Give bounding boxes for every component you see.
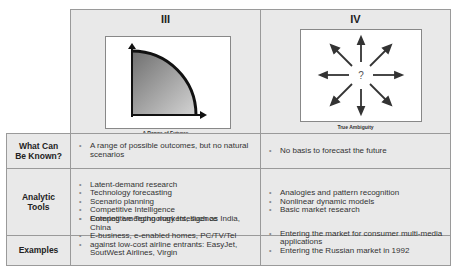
row-header-examples: Examples: [6, 235, 71, 266]
cell-r3-c3: Entering emerging markets, such as India…: [70, 235, 261, 266]
quarter-circle-range-icon: [106, 37, 230, 128]
header-cell-iv: IV ? True Ambiguity: [260, 9, 451, 134]
list-item: Entering emerging markets, such as India…: [79, 215, 254, 232]
list-item: No basis to forecast the future: [269, 147, 444, 156]
numeral-iv: IV: [261, 13, 450, 25]
numeral-iii: III: [71, 13, 260, 25]
list-item: Basic market research: [269, 206, 444, 215]
caption-iv: True Ambiguity: [261, 124, 450, 130]
list-item: A range of possible outcomes, but no nat…: [79, 142, 254, 159]
list-item: Entering the Russian market in 1992: [269, 247, 444, 256]
header-cell-iii: III A Range of Futures: [70, 9, 261, 134]
cell-r2-c4: Analogies and pattern recognition Nonlin…: [260, 168, 451, 236]
list-item: against low-cost airline entrants: EasyJ…: [79, 241, 254, 258]
figure-box-iii: [105, 36, 231, 129]
row-header-analytic-tools: AnalyticTools: [6, 168, 71, 236]
row-header-what-can-be-known: What CanBe Known?: [6, 133, 71, 169]
cell-r1-c4: No basis to forecast the future: [260, 133, 451, 169]
cell-r1-c3: A range of possible outcomes, but no nat…: [70, 133, 261, 169]
question-mark-icon: ?: [358, 70, 364, 81]
list-item: Entering the market for consumer multi-m…: [269, 230, 444, 247]
radiating-arrows-question-icon: ?: [301, 30, 421, 121]
figure-box-iv: ?: [300, 29, 422, 122]
cell-r3-c4: Entering the market for consumer multi-m…: [260, 235, 451, 266]
